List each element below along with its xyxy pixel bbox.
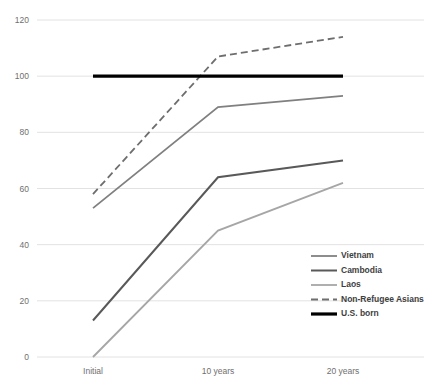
y-axis-tick-label: 0: [24, 352, 29, 362]
x-axis-tick-label: 10 years: [202, 366, 235, 376]
chart-legend: VietnamCambodiaLaosNon-Refugee AsiansU.S…: [311, 250, 424, 318]
series-line-cambodia: [93, 160, 343, 320]
legend-label-u-s-born: U.S. born: [341, 308, 379, 318]
legend-label-laos: Laos: [341, 279, 361, 289]
legend-label-non-refugee-asians: Non-Refugee Asians: [341, 294, 424, 304]
y-axis-tick-label: 40: [20, 240, 30, 250]
y-axis-tick-label: 120: [15, 15, 29, 25]
legend-label-cambodia: Cambodia: [341, 265, 382, 275]
y-axis-tick-label: 20: [20, 296, 30, 306]
data-series-group: [93, 37, 343, 357]
series-line-non-refugee-asians: [93, 37, 343, 194]
chart-canvas: 120100806040200 Initial10 years20 years …: [0, 0, 434, 390]
y-axis-tick-label: 100: [15, 71, 29, 81]
line-chart: 120100806040200 Initial10 years20 years …: [0, 0, 434, 390]
x-axis-tick-labels: Initial10 years20 years: [83, 366, 359, 376]
x-axis-tick-label: 20 years: [327, 366, 360, 376]
series-line-laos: [93, 183, 343, 357]
legend-label-vietnam: Vietnam: [341, 250, 374, 260]
gridlines: [37, 20, 424, 357]
x-axis-tick-label: Initial: [83, 366, 103, 376]
y-axis-tick-label: 60: [20, 184, 30, 194]
y-axis-tick-labels: 120100806040200: [15, 15, 29, 362]
y-axis-tick-label: 80: [20, 127, 30, 137]
